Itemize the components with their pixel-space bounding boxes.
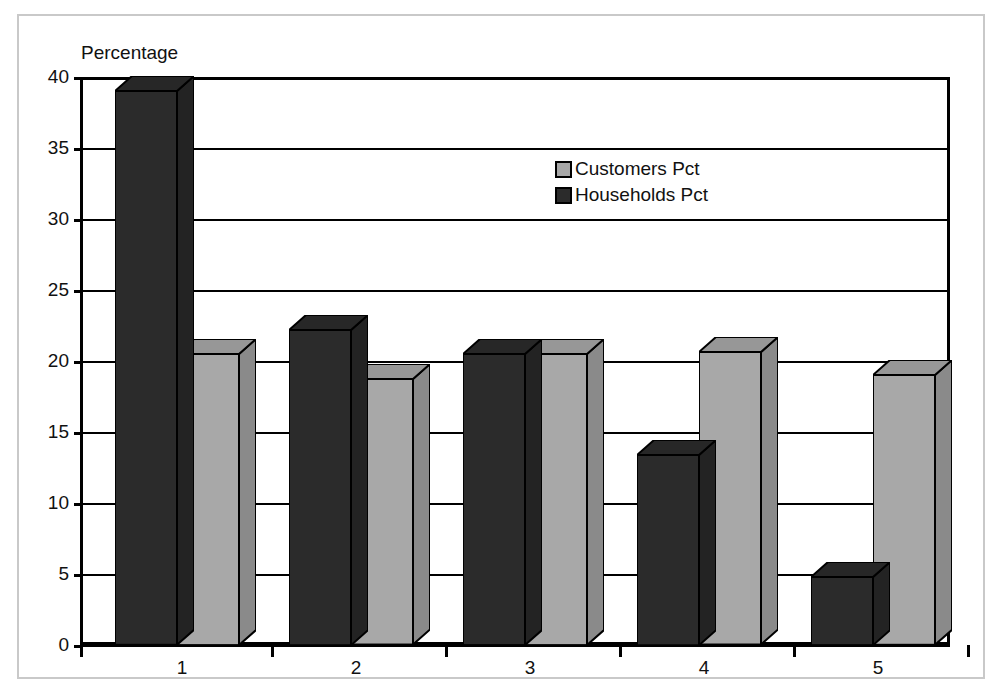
y-tick-mark-25: [74, 290, 83, 293]
bar-households-2-shape: [289, 315, 368, 645]
legend-swatch-customers: [555, 161, 572, 178]
y-axis-unit-label: Percentage: [81, 42, 178, 64]
y-tick-label-10: 10: [48, 492, 69, 514]
chart-screenshot: Percentage 0510152025303540 12345 Custom…: [0, 0, 1000, 694]
y-tick-label-5: 5: [58, 563, 69, 585]
x-tick-mark-5: [967, 645, 970, 657]
bar-households-1: [115, 76, 194, 645]
y-tick-label-30: 30: [48, 208, 69, 230]
y-tick-mark-35: [74, 148, 83, 151]
y-tick-mark-40: [74, 77, 83, 80]
y-tick-label-40: 40: [48, 66, 69, 88]
y-tick-label-20: 20: [48, 350, 69, 372]
x-tick-mark-4: [793, 645, 796, 657]
x-tick-label-5: 5: [873, 657, 884, 679]
bar-households-5: [811, 562, 890, 645]
x-tick-label-4: 4: [699, 657, 710, 679]
y-axis-tick-labels: 0510152025303540: [33, 77, 69, 645]
x-tick-mark-3: [619, 645, 622, 657]
y-tick-mark-10: [74, 503, 83, 506]
legend-swatch-households: [555, 187, 572, 204]
bar-households-3-shape: [463, 339, 542, 645]
legend: Customers PctHouseholds Pct: [555, 156, 785, 208]
y-tick-label-0: 0: [58, 634, 69, 656]
y-tick-mark-20: [74, 361, 83, 364]
legend-item-1: Customers Pct: [555, 156, 785, 182]
x-tick-mark-origin: [80, 645, 83, 657]
x-axis-tick-labels: 12345: [80, 657, 950, 691]
bar-households-4: [637, 440, 716, 645]
y-tick-mark-30: [74, 219, 83, 222]
x-tick-label-2: 2: [351, 657, 362, 679]
gridline-40: [83, 77, 950, 80]
bar-households-2: [289, 315, 368, 645]
x-tick-mark-2: [445, 645, 448, 657]
y-tick-mark-15: [74, 432, 83, 435]
figure-frame: Percentage 0510152025303540 12345 Custom…: [17, 14, 985, 679]
y-tick-label-15: 15: [48, 421, 69, 443]
y-tick-mark-5: [74, 574, 83, 577]
bar-households-4-shape: [637, 440, 716, 645]
gridline-25: [83, 290, 950, 292]
x-tick-mark-1: [271, 645, 274, 657]
gridline-30: [83, 219, 950, 221]
bar-households-3: [463, 339, 542, 645]
legend-item-2: Households Pct: [555, 182, 785, 208]
legend-label-1: Customers Pct: [575, 158, 700, 180]
y-tick-label-25: 25: [48, 279, 69, 301]
x-tick-label-3: 3: [525, 657, 536, 679]
y-tick-label-35: 35: [48, 137, 69, 159]
gridline-35: [83, 148, 950, 150]
x-tick-label-1: 1: [177, 657, 188, 679]
bar-households-5-shape: [811, 562, 890, 645]
bar-households-1-shape: [115, 76, 194, 645]
plot-area: [80, 77, 947, 645]
legend-label-2: Households Pct: [575, 184, 708, 206]
